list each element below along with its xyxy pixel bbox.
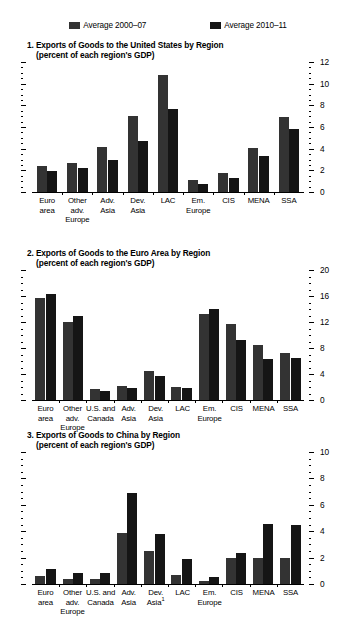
bar-group <box>59 270 86 400</box>
axis-tick <box>21 342 23 343</box>
bar <box>100 573 110 584</box>
axis-tick <box>309 122 311 123</box>
category-label: Em.Europe <box>196 404 223 433</box>
axis-tick <box>21 122 23 123</box>
axis-tick <box>21 270 26 271</box>
axis-tick <box>21 322 26 323</box>
axis-tick <box>21 531 26 532</box>
axis-tick <box>309 465 311 466</box>
bar <box>248 148 258 192</box>
axis-tick <box>309 95 311 96</box>
bar <box>209 309 219 400</box>
axis-tick <box>309 381 311 382</box>
axis-tick <box>21 544 23 545</box>
axis-tick <box>309 544 311 545</box>
category-label: Dev.Asia1 <box>142 588 169 617</box>
bar <box>90 389 100 400</box>
axis-tick <box>21 316 23 317</box>
axis-tick <box>21 571 23 572</box>
y-axis-tick-label: 10 <box>320 80 329 88</box>
y-axis-tick-label: 2 <box>320 166 325 174</box>
bar-group <box>183 62 213 192</box>
bar-group <box>114 452 141 584</box>
axis-tick <box>309 149 314 150</box>
bar-group <box>277 270 304 400</box>
bar <box>279 117 289 192</box>
axis-tick <box>309 394 311 395</box>
axis-tick <box>309 290 311 291</box>
axis-tick <box>21 577 23 578</box>
category-label: Adv.Asia <box>115 588 142 617</box>
axis-tick <box>309 498 311 499</box>
axis-tick <box>21 78 23 79</box>
legend-item-average-2000-07: Average 2000–07 <box>69 22 146 30</box>
bar-group <box>86 270 113 400</box>
bar-group <box>32 452 59 584</box>
bar <box>280 353 290 400</box>
axis-tick <box>309 176 311 177</box>
y-axis-tick-label: 4 <box>320 370 325 378</box>
axis-tick <box>21 538 23 539</box>
bar <box>168 109 178 192</box>
axis-tick <box>309 525 311 526</box>
category-label: Adv.Asia <box>92 196 122 225</box>
y-axis-tick-label: 12 <box>320 58 329 66</box>
axis-tick <box>309 511 311 512</box>
bar <box>182 388 192 400</box>
panel-2-bar-groups <box>32 270 304 400</box>
axis-tick <box>309 584 314 585</box>
axis-tick <box>21 452 26 453</box>
axis-tick <box>309 335 311 336</box>
panel-3-axis-baseline <box>32 584 304 585</box>
axis-tick <box>21 290 23 291</box>
axis-tick <box>309 309 311 310</box>
category-label: CIS <box>213 196 243 225</box>
bar <box>138 141 148 192</box>
panel-3-plot-area: 0246810 <box>32 452 304 585</box>
axis-tick <box>21 160 23 161</box>
bar <box>199 314 209 400</box>
axis-tick <box>309 187 311 188</box>
axis-tick <box>309 485 311 486</box>
axis-tick <box>21 95 23 96</box>
panel-2-title: 2. Exports of Goods to the Euro Area by … <box>27 248 210 258</box>
y-axis-tick-label: 8 <box>320 101 325 109</box>
axis-tick <box>21 387 23 388</box>
axis-tick <box>21 558 26 559</box>
axis-tick <box>309 538 311 539</box>
axis-tick <box>309 355 311 356</box>
bar-group <box>222 270 249 400</box>
y-axis-tick-label: 8 <box>320 474 325 482</box>
bar <box>259 156 269 192</box>
bar-group <box>114 270 141 400</box>
axis-tick <box>309 100 311 101</box>
bar <box>226 558 236 584</box>
axis-tick <box>21 505 26 506</box>
axis-tick <box>21 329 23 330</box>
bar <box>198 184 208 192</box>
category-label: MENA <box>244 196 274 225</box>
bar <box>155 376 165 400</box>
footnote-marker: 1 <box>161 596 164 602</box>
category-label: Dev.Asia <box>142 404 169 433</box>
axis-tick <box>21 492 23 493</box>
axis-tick <box>21 518 23 519</box>
axis-tick <box>309 181 311 182</box>
bar-group <box>32 62 62 192</box>
bar-group <box>274 62 304 192</box>
axis-tick <box>21 309 23 310</box>
category-label: LAC <box>169 404 196 433</box>
axis-tick <box>21 525 23 526</box>
axis-tick <box>21 296 26 297</box>
y-axis-tick-label: 16 <box>320 292 329 300</box>
axis-tick <box>21 138 23 139</box>
legend-swatch-icon-average-2010-11 <box>210 22 221 29</box>
axis-tick <box>309 374 314 375</box>
bar <box>97 147 107 193</box>
panel-1-plot-area: 024681012 <box>32 62 304 193</box>
bar <box>253 558 263 584</box>
bar <box>226 324 236 400</box>
panel-2-plot-area: 048121620 <box>32 270 304 401</box>
axis-tick <box>21 283 23 284</box>
bar <box>182 559 192 584</box>
